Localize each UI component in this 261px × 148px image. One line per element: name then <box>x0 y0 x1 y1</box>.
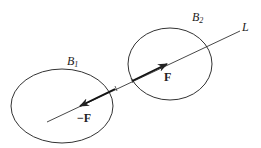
force-f-label: F <box>164 71 171 83</box>
force-neg-f-arrow <box>80 89 115 106</box>
body-b2-label: B2 <box>192 11 203 25</box>
force-neg-f-label: −F <box>77 112 91 124</box>
body-b1-outline <box>11 69 113 143</box>
line-l <box>47 31 240 122</box>
diagram-canvas <box>0 0 261 148</box>
body-b1-label: B1 <box>67 55 78 69</box>
force-f-arrow <box>132 64 167 81</box>
line-l-label: L <box>242 21 249 33</box>
